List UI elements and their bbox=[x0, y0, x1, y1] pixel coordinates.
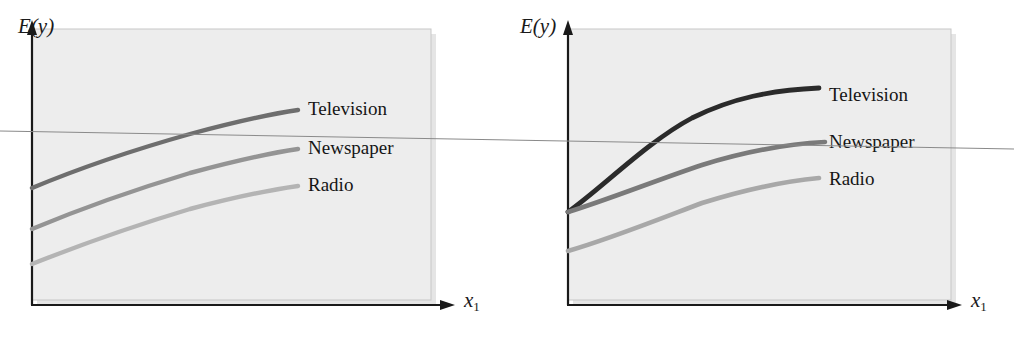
series-label-radio: Radio bbox=[829, 168, 874, 190]
no-interaction-panel: E(y) x1 Television Newspaper Radio bbox=[0, 0, 507, 339]
x-axis-arrowhead bbox=[440, 300, 455, 310]
series-label-television: Television bbox=[308, 98, 387, 120]
x-axis-label: x1 bbox=[464, 288, 480, 313]
y-axis-label: E(y) bbox=[520, 14, 556, 39]
series-label-newspaper: Newspaper bbox=[829, 131, 914, 153]
series-label-newspaper: Newspaper bbox=[308, 137, 393, 159]
no-interaction-plot bbox=[0, 0, 507, 339]
interaction-panel: E(y) x1 Television Newspaper Radio bbox=[507, 0, 1014, 339]
advertising-interaction-figure: E(y) x1 Television Newspaper Radio E(y) bbox=[0, 0, 1014, 339]
y-axis-arrowhead bbox=[563, 20, 573, 35]
x-axis-label: x1 bbox=[971, 288, 987, 313]
series-label-television: Television bbox=[829, 84, 908, 106]
interaction-plot bbox=[507, 0, 1014, 339]
series-label-radio: Radio bbox=[308, 174, 353, 196]
y-axis-label: E(y) bbox=[18, 14, 54, 39]
